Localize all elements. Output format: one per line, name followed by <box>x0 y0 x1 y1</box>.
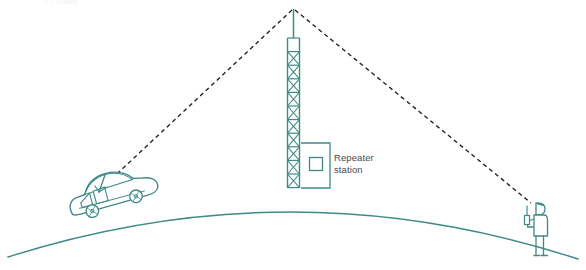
lattice-tower <box>288 9 300 188</box>
repeater-station-label-line1: Repeater <box>334 152 374 164</box>
person-torso <box>534 215 548 236</box>
diagram-svg <box>0 0 586 270</box>
person-legs <box>536 236 544 255</box>
repeater-station-building <box>301 143 330 188</box>
vehicle <box>64 161 162 222</box>
repeater-station-label-line2: station <box>334 164 374 176</box>
handheld-radio <box>525 216 530 225</box>
radio-path-to-vehicle <box>104 10 292 186</box>
vehicle-body <box>64 161 160 216</box>
building-window <box>310 158 323 171</box>
figure-canvas: 9.2 Radio <box>0 0 586 270</box>
person-with-handheld <box>525 203 548 256</box>
repeater-station-label: Repeater station <box>334 152 374 175</box>
earth-curvature-arc <box>8 212 578 259</box>
